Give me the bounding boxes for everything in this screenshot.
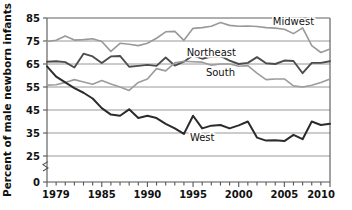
series-label-midwest: Midwest bbox=[273, 16, 314, 27]
x-tick-label: 2005 bbox=[270, 189, 298, 200]
x-tick-label: 1979 bbox=[42, 189, 70, 200]
x-tick-label: 1990 bbox=[133, 189, 161, 200]
y-tick-label: 75 bbox=[26, 36, 40, 47]
line-chart: 0253545556575851979198519901995200020052… bbox=[0, 0, 352, 210]
axis-frame bbox=[47, 18, 330, 182]
series-label-south: South bbox=[206, 67, 235, 78]
x-tick-label: 2010 bbox=[307, 189, 335, 200]
y-tick-label: 0 bbox=[33, 177, 40, 188]
series-line-west bbox=[47, 66, 330, 141]
y-axis: 025354555657585 bbox=[26, 13, 48, 188]
y-tick-label: 45 bbox=[26, 105, 40, 116]
series-label-northeast: Northeast bbox=[187, 47, 236, 58]
y-tick-label: 25 bbox=[26, 151, 40, 162]
y-tick-label: 55 bbox=[26, 82, 40, 93]
series-line-south bbox=[47, 61, 330, 90]
y-axis-title: Percent of male newborn infants bbox=[1, 3, 13, 197]
y-tick-label: 35 bbox=[26, 128, 40, 139]
series-label-west: West bbox=[190, 132, 215, 143]
chart-figure: 0253545556575851979198519901995200020052… bbox=[0, 0, 352, 210]
y-tick-label: 85 bbox=[26, 13, 40, 24]
x-axis: 1979198519901995200020052010 bbox=[42, 182, 335, 200]
x-tick-label: 1985 bbox=[88, 189, 116, 200]
x-tick-label: 1995 bbox=[179, 189, 207, 200]
y-tick-label: 65 bbox=[26, 59, 40, 70]
x-tick-label: 2000 bbox=[225, 189, 253, 200]
